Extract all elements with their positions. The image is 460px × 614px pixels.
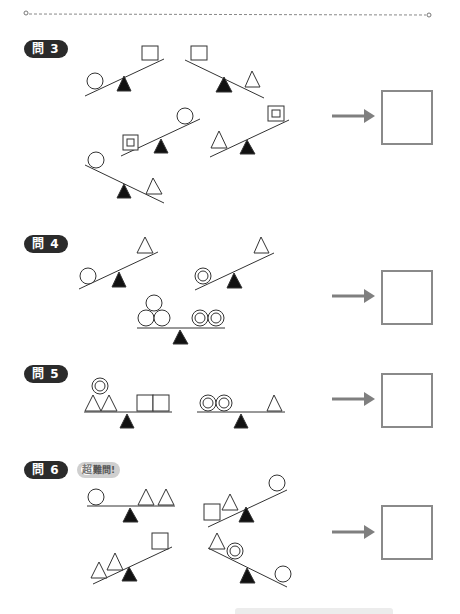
question-label-5: 問 5 <box>24 365 68 383</box>
top-dashed-rule <box>24 11 431 17</box>
question-label-6: 問 6 <box>24 461 68 479</box>
answer-box-q6[interactable] <box>381 505 433 560</box>
footer-tab <box>235 608 393 614</box>
question-label-4: 問 4 <box>24 235 68 253</box>
arrow-right-icon <box>332 525 375 539</box>
hard-question-badge: 超難問! <box>77 462 120 478</box>
arrow-right-icon <box>332 109 375 123</box>
answer-box-q4[interactable] <box>381 270 433 325</box>
question-label-3: 問 3 <box>24 40 68 58</box>
badge-text: 難問! <box>93 465 115 475</box>
arrow-right-icon <box>332 392 375 406</box>
q6-scales <box>87 475 291 587</box>
q3-scales <box>85 46 289 203</box>
answer-box-q3[interactable] <box>381 90 433 145</box>
badge-prefix: 超 <box>81 464 93 475</box>
arrow-right-icon <box>332 289 375 303</box>
q4-scales <box>79 237 274 344</box>
answer-box-q5[interactable] <box>381 373 433 428</box>
q5-scales <box>84 378 285 428</box>
arrows <box>332 109 375 539</box>
